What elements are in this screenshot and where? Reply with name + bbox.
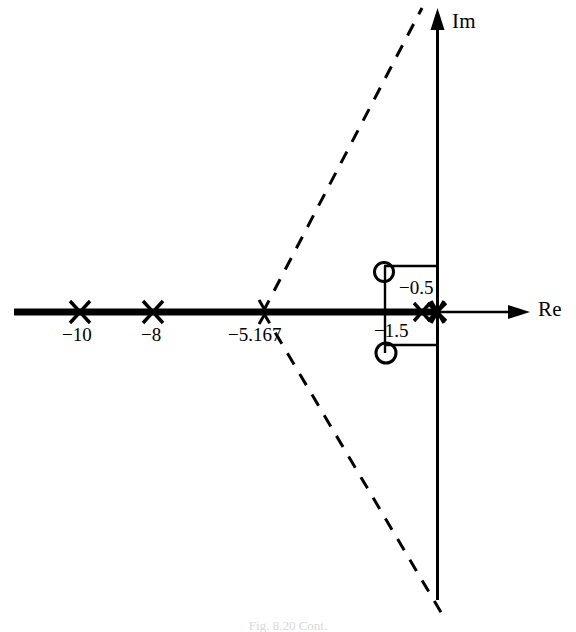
tick-label-minus-10: −10 [62,325,92,344]
imaginary-axis-arrowhead [431,8,445,30]
asymptote-lower-minus60deg [263,312,442,614]
tick-label-breakaway: −5.167 [228,325,281,344]
real-axis-label: Re [538,299,562,320]
tick-label-minus-8: −8 [141,325,161,344]
annotation-zero-lower: −1.5 [374,321,408,340]
real-axis-arrowhead [508,305,530,319]
annotation-zero-upper: −0.5 [399,278,433,297]
real-axis [437,305,530,319]
figure-caption: Fig. 8.20 Cont. [0,619,576,632]
imaginary-axis-label: Im [452,11,476,32]
